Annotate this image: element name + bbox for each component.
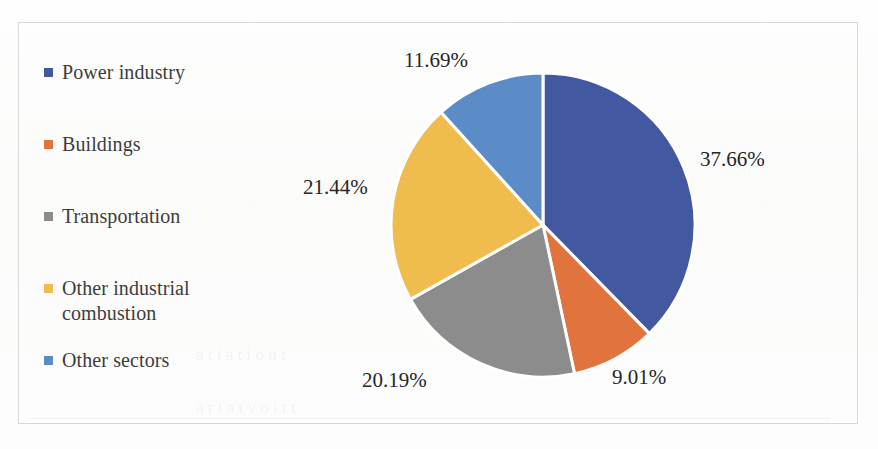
pie-svg	[388, 70, 698, 380]
legend-item-other-industrial-combustion[interactable]: Other industrial combustion	[44, 276, 244, 348]
legend-label-transportation: Transportation	[62, 204, 180, 229]
chart-legend: Power industry Buildings Transportation …	[44, 60, 244, 420]
data-label-power-industry: 37.66%	[700, 147, 765, 172]
pie-chart-figure: c on il tnn to t9pn a t i a t i o u t a …	[0, 0, 878, 449]
legend-label-power-industry: Power industry	[62, 60, 185, 85]
legend-marker-transportation	[44, 212, 53, 221]
data-label-transportation: 20.19%	[362, 368, 427, 393]
legend-item-power-industry[interactable]: Power industry	[44, 60, 244, 132]
legend-label-other-industrial-combustion: Other industrial combustion	[62, 276, 190, 326]
legend-label-buildings: Buildings	[62, 132, 141, 157]
legend-marker-other-sectors	[44, 356, 53, 365]
data-label-buildings: 9.01%	[612, 365, 666, 390]
legend-marker-buildings	[44, 140, 53, 149]
legend-item-transportation[interactable]: Transportation	[44, 204, 244, 276]
data-label-other-industrial-combustion: 21.44%	[303, 175, 368, 200]
legend-item-buildings[interactable]: Buildings	[44, 132, 244, 204]
pie-graphic	[388, 70, 698, 380]
legend-label-other-sectors: Other sectors	[62, 348, 169, 373]
legend-item-other-sectors[interactable]: Other sectors	[44, 348, 244, 420]
data-label-other-sectors: 11.69%	[404, 48, 468, 73]
legend-marker-other-industrial-combustion	[44, 284, 53, 293]
legend-marker-power-industry	[44, 68, 53, 77]
